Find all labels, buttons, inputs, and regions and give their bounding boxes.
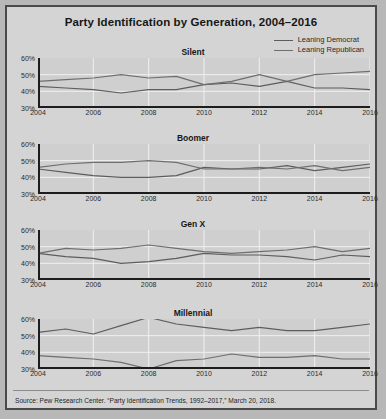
- panel-title: Boomer: [7, 133, 379, 144]
- x-tick-label: 2012: [252, 109, 268, 116]
- page-title: Party Identification by Generation, 2004…: [7, 7, 375, 28]
- plot-canvas: [38, 144, 370, 194]
- y-axis-line: [38, 319, 40, 369]
- source-note: Source: Pew Research Center. “Party Iden…: [15, 397, 367, 404]
- y-tick-label: 60%: [21, 316, 35, 323]
- x-tick-label: 2014: [307, 195, 323, 202]
- chart-figure: Party Identification by Generation, 2004…: [5, 5, 377, 410]
- x-tick-label: 2012: [252, 195, 268, 202]
- legend-swatch-democrat: [274, 40, 293, 41]
- x-tick-label: 2016: [362, 281, 378, 288]
- x-tick-label: 2006: [86, 195, 102, 202]
- x-axis-labels: 2004200620082010201220142016: [38, 194, 370, 206]
- plot-canvas: [38, 58, 370, 108]
- x-axis-labels: 2004200620082010201220142016: [38, 108, 370, 120]
- chart-panel-gen-x: Gen X60%50%40%30%20042006200820102012201…: [7, 219, 379, 292]
- x-tick-label: 2008: [141, 195, 157, 202]
- x-tick-label: 2014: [307, 370, 323, 377]
- x-tick-label: 2012: [252, 370, 268, 377]
- y-tick-label: 40%: [21, 88, 35, 95]
- x-axis-labels: 2004200620082010201220142016: [38, 280, 370, 292]
- x-tick-label: 2014: [307, 109, 323, 116]
- x-tick-label: 2008: [141, 370, 157, 377]
- x-tick-label: 2004: [30, 109, 46, 116]
- panel-title: Gen X: [7, 219, 379, 230]
- x-tick-label: 2006: [86, 281, 102, 288]
- x-tick-label: 2010: [196, 195, 212, 202]
- x-tick-label: 2008: [141, 109, 157, 116]
- x-tick-label: 2010: [196, 109, 212, 116]
- y-tick-label: 40%: [21, 174, 35, 181]
- plot-area: 60%50%40%30%: [38, 319, 370, 369]
- y-tick-label: 60%: [21, 227, 35, 234]
- x-tick-label: 2010: [196, 281, 212, 288]
- legend-item-democrat: Leaning Democrat: [274, 35, 364, 45]
- x-tick-label: 2016: [362, 370, 378, 377]
- y-tick-label: 40%: [21, 260, 35, 267]
- chart-panel-silent: Silent60%50%40%30%2004200620082010201220…: [7, 47, 379, 120]
- y-axis-line: [38, 58, 40, 108]
- plot-area: 60%50%40%30%: [38, 58, 370, 108]
- chart-panel-boomer: Boomer60%50%40%30%2004200620082010201220…: [7, 133, 379, 206]
- y-tick-label: 50%: [21, 243, 35, 250]
- y-tick-label: 40%: [21, 349, 35, 356]
- x-tick-label: 2008: [141, 281, 157, 288]
- x-tick-label: 2016: [362, 195, 378, 202]
- panel-title: Millennial: [7, 308, 379, 319]
- plot-area: 60%50%40%30%: [38, 144, 370, 194]
- chart-panel-millennial: Millennial60%50%40%30%200420062008201020…: [7, 308, 379, 381]
- x-axis-labels: 2004200620082010201220142016: [38, 369, 370, 381]
- y-tick-label: 50%: [21, 71, 35, 78]
- x-tick-label: 2004: [30, 370, 46, 377]
- x-tick-label: 2012: [252, 281, 268, 288]
- y-axis-line: [38, 230, 40, 280]
- x-tick-label: 2006: [86, 370, 102, 377]
- y-tick-label: 50%: [21, 157, 35, 164]
- footer-divider: [13, 390, 369, 391]
- x-tick-label: 2004: [30, 195, 46, 202]
- x-tick-label: 2006: [86, 109, 102, 116]
- x-tick-label: 2014: [307, 281, 323, 288]
- y-axis-line: [38, 144, 40, 194]
- y-tick-label: 50%: [21, 332, 35, 339]
- x-tick-label: 2010: [196, 370, 212, 377]
- y-tick-label: 60%: [21, 55, 35, 62]
- x-tick-label: 2016: [362, 109, 378, 116]
- panel-title: Silent: [7, 47, 379, 58]
- legend-label-democrat: Leaning Democrat: [298, 35, 359, 45]
- plot-canvas: [38, 319, 370, 369]
- x-tick-label: 2004: [30, 281, 46, 288]
- plot-area: 60%50%40%30%: [38, 230, 370, 280]
- y-tick-label: 60%: [21, 141, 35, 148]
- plot-canvas: [38, 230, 370, 280]
